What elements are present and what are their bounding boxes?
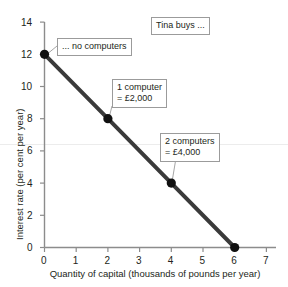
callout-one-computer-line1: 1 computer bbox=[117, 82, 162, 92]
callout-two-computers: 2 computers = £4,000 bbox=[160, 133, 220, 162]
callout-leader-lines bbox=[46, 46, 176, 182]
callout-two-computers-line2: = £4,000 bbox=[165, 147, 215, 158]
data-point-3 bbox=[230, 243, 239, 252]
x-axis-label: Quantity of capital (thousands of pounds… bbox=[30, 268, 280, 279]
x-tick-label-5: 5 bbox=[200, 255, 206, 266]
y-tick-label-10: 10 bbox=[21, 81, 32, 92]
callout-no-computers: ... no computers bbox=[57, 38, 132, 56]
callout-one-computer-line2: = £2,000 bbox=[117, 93, 162, 104]
chart-canvas bbox=[0, 0, 288, 287]
data-point-1 bbox=[103, 114, 112, 123]
y-tick-label-12: 12 bbox=[21, 49, 32, 60]
x-tick-label-7: 7 bbox=[263, 255, 269, 266]
title-callout-line1: Tina buys ... bbox=[156, 20, 205, 30]
y-tick-label-2: 2 bbox=[27, 210, 33, 221]
chart-figure: 0 2 4 6 8 10 12 14 0 1 2 3 4 5 6 7 Inter… bbox=[0, 0, 288, 287]
y-tick-label-14: 14 bbox=[21, 17, 32, 28]
callout-one-computer: 1 computer = £2,000 bbox=[112, 79, 167, 108]
y-axis-label: Interest rate (per cent per year) bbox=[14, 109, 25, 240]
y-tick-label-6: 6 bbox=[27, 145, 33, 156]
data-point-2 bbox=[167, 179, 176, 188]
data-point-0 bbox=[40, 50, 49, 59]
x-tick-label-0: 0 bbox=[41, 255, 47, 266]
y-tick-label-8: 8 bbox=[27, 113, 33, 124]
title-callout-box: Tina buys ... bbox=[151, 17, 210, 35]
x-tick-label-2: 2 bbox=[104, 255, 110, 266]
callout-no-computers-line1: ... no computers bbox=[62, 41, 127, 51]
x-tick-label-1: 1 bbox=[73, 255, 79, 266]
x-tick-label-4: 4 bbox=[168, 255, 174, 266]
callout-two-computers-line1: 2 computers bbox=[165, 136, 215, 146]
x-tick-label-6: 6 bbox=[231, 255, 237, 266]
x-tick-label-3: 3 bbox=[136, 255, 142, 266]
y-tick-label-4: 4 bbox=[27, 178, 33, 189]
y-tick-label-0: 0 bbox=[27, 242, 33, 253]
